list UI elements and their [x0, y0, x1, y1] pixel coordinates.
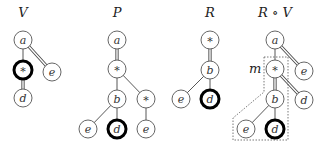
node-label: e	[301, 65, 308, 78]
node-label: a	[114, 34, 121, 47]
node-label: *	[207, 35, 213, 48]
node-label: d	[19, 92, 26, 105]
node-label: a	[272, 34, 279, 47]
node-label: *	[20, 65, 26, 78]
tree-diagram: m a*eda*b*ede*beda*ebded V P R R ∘ V	[0, 0, 328, 148]
node-label: d	[206, 93, 213, 106]
node-label: d	[113, 123, 120, 136]
node-label: *	[272, 64, 278, 77]
tree-title-v: V	[18, 5, 29, 20]
node-label: e	[243, 123, 250, 136]
node-label: e	[49, 66, 56, 79]
tree-title-p: P	[112, 5, 122, 20]
node-label: d	[300, 94, 307, 107]
node-label: d	[271, 123, 278, 136]
node-label: e	[85, 123, 92, 136]
node-label: b	[271, 93, 278, 106]
nodes-layer: a*eda*b*ede*beda*ebded	[14, 31, 313, 138]
region-m-label: m	[249, 61, 261, 76]
node-label: *	[143, 94, 149, 107]
node-label: *	[114, 64, 120, 77]
tree-title-r: R	[204, 5, 215, 20]
tree-title-rv: R ∘ V	[257, 5, 293, 20]
edges-layer	[23, 40, 304, 129]
node-label: b	[113, 93, 120, 106]
node-label: e	[178, 93, 185, 106]
node-label: e	[143, 123, 150, 136]
node-label: a	[20, 34, 27, 47]
node-label: b	[206, 64, 213, 77]
